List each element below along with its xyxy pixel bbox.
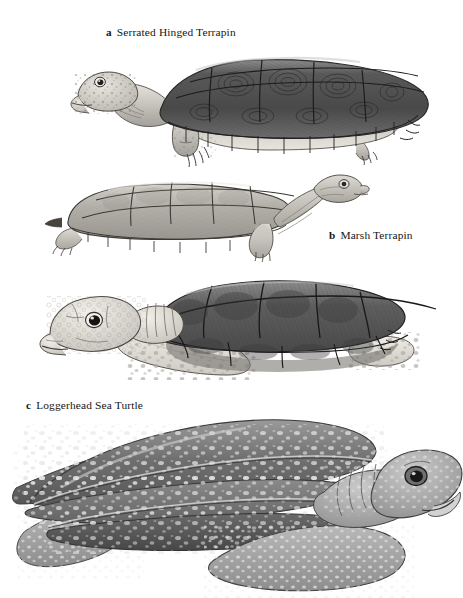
caption-a-name: Serrated Hinged Terrapin — [117, 26, 236, 38]
caption-a: aSerrated Hinged Terrapin — [106, 26, 236, 38]
figure-leatherback-sea-turtle — [4, 414, 462, 598]
caption-c-name: Loggerhead Sea Turtle — [36, 399, 143, 411]
illustration-plate: aSerrated Hinged Terrapin — [0, 0, 463, 598]
figure-serrated-hinged-terrapin — [56, 46, 428, 174]
figure-marsh-terrapin — [38, 166, 368, 266]
figure-loggerhead-sea-turtle — [36, 272, 446, 394]
caption-c-tag: c — [26, 399, 31, 411]
caption-c: cLoggerhead Sea Turtle — [26, 399, 143, 411]
caption-a-tag: a — [106, 26, 112, 38]
